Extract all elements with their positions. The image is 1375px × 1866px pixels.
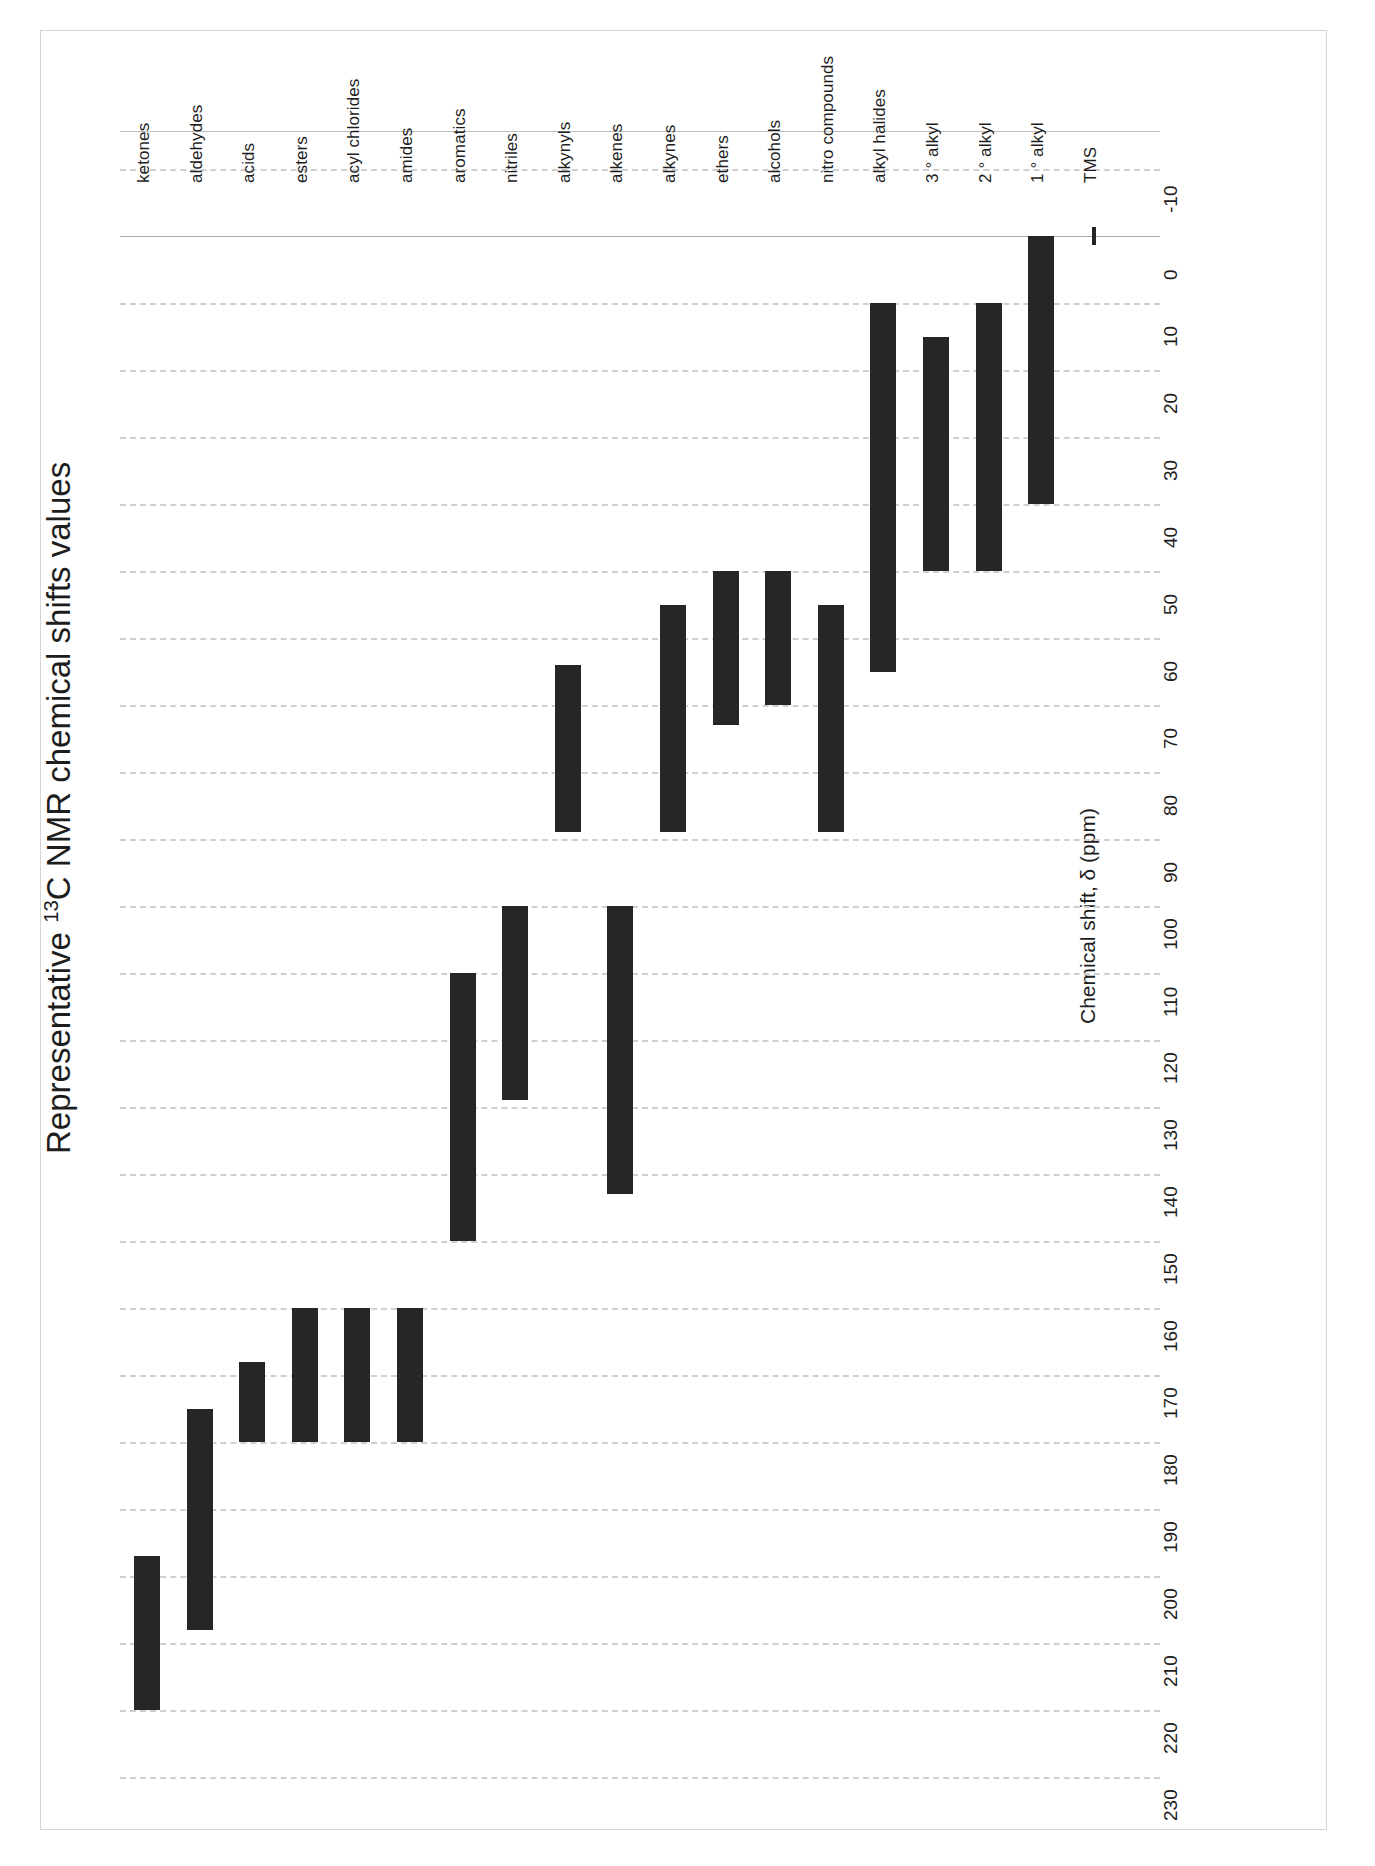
tick-label-140: 140 xyxy=(1160,1186,1182,1218)
category-label-2-alkyl: 2 ° alkyl xyxy=(976,122,996,183)
category-label-alkyl-halides: alkyl halides xyxy=(870,89,890,183)
category-label-alkynyls: alkynyls xyxy=(555,122,575,183)
category-label-tms: TMS xyxy=(1081,147,1101,183)
bar-3-alkyl xyxy=(923,337,949,572)
category-label-aromatics: aromatics xyxy=(450,108,470,183)
category-label-alcohols: alcohols xyxy=(765,120,785,183)
tick-label-200: 200 xyxy=(1160,1588,1182,1620)
bar-esters xyxy=(292,1308,318,1442)
tick-label-160: 160 xyxy=(1160,1320,1182,1352)
tick-label-10: 10 xyxy=(1160,326,1182,347)
gridline-130 xyxy=(120,1107,1160,1109)
bar-aldehydes xyxy=(187,1409,213,1630)
category-label-ketones: ketones xyxy=(134,123,154,183)
tick-label-90: 90 xyxy=(1160,862,1182,883)
category-label-ethers: ethers xyxy=(713,135,733,183)
gridline-90 xyxy=(120,839,1160,841)
gridline-120 xyxy=(120,1040,1160,1042)
tick-label--10: -10 xyxy=(1160,186,1182,213)
tick-label-120: 120 xyxy=(1160,1052,1182,1084)
tick-label-40: 40 xyxy=(1160,527,1182,548)
category-label-3-alkyl: 3 ° alkyl xyxy=(923,122,943,183)
chart-title-suffix: C NMR chemical shifts values xyxy=(40,462,77,900)
bar-acids xyxy=(239,1362,265,1442)
tick-label-210: 210 xyxy=(1160,1655,1182,1687)
bar-ethers xyxy=(713,571,739,725)
gridline-40 xyxy=(120,504,1160,506)
gridline-160 xyxy=(120,1308,1160,1310)
tick-label-110: 110 xyxy=(1160,987,1182,1017)
gridline-200 xyxy=(120,1576,1160,1578)
bar-tms xyxy=(1092,227,1096,245)
category-label-alkynes: alkynes xyxy=(660,125,680,183)
tick-label-80: 80 xyxy=(1160,795,1182,816)
tick-label-60: 60 xyxy=(1160,661,1182,682)
bar-alkynes xyxy=(660,605,686,833)
category-label-nitriles: nitriles xyxy=(502,133,522,183)
bar-alkenes xyxy=(607,906,633,1194)
category-label-1-alkyl: 1 ° alkyl xyxy=(1028,122,1048,183)
category-label-nitro-compounds: nitro compounds xyxy=(818,56,838,183)
bar-alkyl-halides xyxy=(870,303,896,672)
tick-label-100: 100 xyxy=(1160,918,1182,950)
bar-alkynyls xyxy=(555,665,581,833)
tick-label-0: 0 xyxy=(1160,269,1182,280)
category-label-esters: esters xyxy=(292,136,312,183)
gridline-110 xyxy=(120,973,1160,975)
tick-label-130: 130 xyxy=(1160,1119,1182,1151)
bar-acyl-chlorides xyxy=(344,1308,370,1442)
chart-title: Representative 13C NMR chemical shifts v… xyxy=(39,462,78,1154)
tick-label-20: 20 xyxy=(1160,393,1182,414)
gridline-70 xyxy=(120,705,1160,707)
gridline-50 xyxy=(120,571,1160,573)
gridline-60 xyxy=(120,638,1160,640)
category-label-aldehydes: aldehydes xyxy=(187,105,207,183)
gridline-30 xyxy=(120,437,1160,439)
category-label-acids: acids xyxy=(239,143,259,183)
gridline-210 xyxy=(120,1643,1160,1645)
gridline-10 xyxy=(120,303,1160,305)
tick-label-220: 220 xyxy=(1160,1722,1182,1754)
bar-2-alkyl xyxy=(976,303,1002,571)
tick-label-30: 30 xyxy=(1160,460,1182,481)
gridline-220 xyxy=(120,1710,1160,1712)
bar-amides xyxy=(397,1308,423,1442)
gridline-20 xyxy=(120,370,1160,372)
gridline-100 xyxy=(120,906,1160,908)
bar-aromatics xyxy=(450,973,476,1241)
gridline--10 xyxy=(120,169,1160,171)
gridline-190 xyxy=(120,1509,1160,1511)
category-label-acyl-chlorides: acyl chlorides xyxy=(344,79,364,183)
chart-title-prefix: Representative xyxy=(40,923,77,1154)
bar-alcohols xyxy=(765,571,791,705)
chart-title-superscript: 13 xyxy=(39,900,62,923)
tick-label-230: 230 xyxy=(1160,1789,1182,1821)
tick-label-50: 50 xyxy=(1160,594,1182,615)
category-label-alkenes: alkenes xyxy=(607,124,627,183)
bar-nitro-compounds xyxy=(818,605,844,833)
tick-label-180: 180 xyxy=(1160,1454,1182,1486)
gridline-150 xyxy=(120,1241,1160,1243)
gridline-180 xyxy=(120,1442,1160,1444)
gridline-230 xyxy=(120,1777,1160,1779)
gridline-170 xyxy=(120,1375,1160,1377)
chart-top-rule xyxy=(120,131,1160,132)
tick-label-70: 70 xyxy=(1160,728,1182,749)
category-label-amides: amides xyxy=(397,128,417,183)
tick-label-190: 190 xyxy=(1160,1521,1182,1553)
gridline-0 xyxy=(120,236,1160,237)
bar-nitriles xyxy=(502,906,528,1100)
bar-1-alkyl xyxy=(1028,236,1054,504)
gridline-140 xyxy=(120,1174,1160,1176)
bar-ketones xyxy=(134,1556,160,1710)
tick-label-170: 170 xyxy=(1160,1387,1182,1419)
plot-area: ketonesaldehydesacidsestersacyl chloride… xyxy=(120,60,1160,1820)
gridline-80 xyxy=(120,772,1160,774)
chart-page: Representative 13C NMR chemical shifts v… xyxy=(0,0,1375,1866)
tick-label-150: 150 xyxy=(1160,1253,1182,1285)
